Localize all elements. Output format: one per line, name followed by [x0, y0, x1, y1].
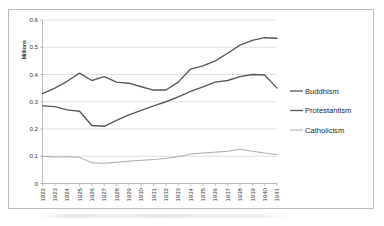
x-tick-label: 1938: [236, 187, 243, 201]
legend-label-protestantism[interactable]: Protestantism: [305, 106, 351, 115]
y-tick-label: 0.4: [29, 71, 38, 78]
y-axis-tick-labels: 00.10.20.30.40.50.6: [29, 16, 38, 187]
y-axis-title: Millions: [21, 40, 27, 59]
x-tick-label: 1927: [100, 187, 107, 201]
x-tick-label: 1936: [211, 187, 218, 201]
series-lines: [43, 38, 278, 164]
x-tick-label: 1933: [174, 187, 181, 201]
x-tick-label: 1929: [125, 187, 132, 201]
y-tick-label: 0: [35, 180, 39, 187]
series-line-protestantism: [43, 75, 278, 127]
x-tick-label: 1925: [76, 187, 83, 201]
x-tick-label: 1940: [261, 187, 268, 201]
scan-artifact-band: [40, 214, 290, 218]
x-tick-label: 1937: [224, 187, 231, 201]
x-tick-label: 1935: [199, 187, 206, 201]
x-tick-label: 1924: [63, 187, 70, 201]
y-tick-label: 0.3: [29, 98, 38, 105]
x-tick-label: 1931: [150, 187, 157, 201]
x-tick-label: 1926: [88, 187, 95, 201]
chart-legend: BuddhismProtestantismCatholicism: [290, 87, 351, 135]
x-tick-label: 1928: [113, 187, 120, 201]
y-tick-label: 0.1: [29, 152, 38, 159]
gridlines: [43, 20, 278, 156]
legend-label-catholicism[interactable]: Catholicism: [305, 126, 344, 135]
x-tick-label: 1941: [273, 187, 280, 201]
x-tick-label: 1934: [187, 187, 194, 201]
x-tick-label: 1922: [39, 187, 46, 201]
line-chart: 00.10.20.30.40.50.6 Millions 19221923192…: [0, 0, 384, 226]
y-tick-label: 0.5: [29, 43, 38, 50]
x-tick-label: 1932: [162, 187, 169, 201]
series-line-buddhism: [43, 38, 278, 94]
chart-screenshot-root: 00.10.20.30.40.50.6 Millions 19221923192…: [0, 0, 384, 226]
x-tick-label: 1923: [51, 187, 58, 201]
x-tick-label: 1930: [137, 187, 144, 201]
y-tick-label: 0.2: [29, 125, 38, 132]
chart-canvas: 00.10.20.30.40.50.6 Millions 19221923192…: [0, 0, 384, 226]
y-tick-label: 0.6: [29, 16, 38, 23]
x-axis-tick-labels: 1922192319241925192619271928192919301931…: [39, 187, 281, 201]
x-tick-label: 1939: [249, 187, 256, 201]
legend-label-buddhism[interactable]: Buddhism: [305, 87, 339, 96]
